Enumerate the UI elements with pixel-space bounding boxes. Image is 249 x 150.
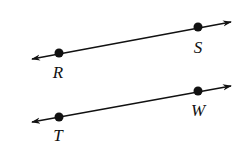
parallel-lines-diagram: R S T W [0, 0, 249, 150]
point-w-dot [194, 87, 203, 96]
point-t-dot [55, 113, 64, 122]
point-r-dot [55, 49, 64, 58]
point-r-label: R [52, 63, 64, 82]
line-rs: R S [32, 22, 231, 82]
point-w-label: W [191, 101, 207, 120]
point-s-dot [194, 23, 203, 32]
diagram-svg: R S T W [0, 0, 249, 150]
line-tw: T W [32, 86, 231, 145]
point-s-label: S [194, 38, 203, 57]
point-t-label: T [53, 126, 64, 145]
